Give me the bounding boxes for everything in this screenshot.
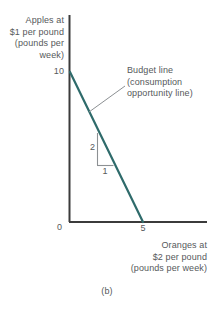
figure-panel-b: Apples at$1 per pound(pounds perweek) 10… xyxy=(0,0,213,310)
x-axis-label-line-3: (pounds per week) xyxy=(131,263,207,273)
slope-run-label: 1 xyxy=(99,166,111,178)
budget-line-annotation-line-2: (consumption xyxy=(127,77,182,87)
x-axis-label: Oranges at$2 per pound(pounds per week) xyxy=(92,240,207,275)
panel-caption: (b) xyxy=(93,286,121,298)
y-axis-label-line-1: Apples at xyxy=(26,15,64,25)
budget-line-annotation: Budget line(consumptionopportunity line) xyxy=(127,65,213,100)
y-axis-label-line-4: week) xyxy=(39,50,64,60)
slope-rise-label: 2 xyxy=(84,142,95,154)
y-tick-label-10: 10 xyxy=(44,66,64,78)
y-axis-label-line-3: (pounds per xyxy=(15,38,64,48)
origin-tick-label: 0 xyxy=(46,222,62,234)
y-axis-label: Apples at$1 per pound(pounds perweek) xyxy=(0,15,64,61)
x-tick-label-5: 5 xyxy=(135,223,151,235)
budget-line-annotation-line-1: Budget line xyxy=(127,65,173,75)
x-axis-label-line-2: $2 per pound xyxy=(153,252,207,262)
annotation-leader-line xyxy=(89,86,125,112)
budget-line-annotation-line-3: opportunity line) xyxy=(127,88,193,98)
y-axis-label-line-2: $1 per pound xyxy=(10,27,64,37)
x-axis-label-line-1: Oranges at xyxy=(161,240,207,250)
